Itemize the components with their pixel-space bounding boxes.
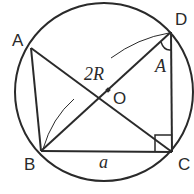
segment-bd-diameter [41, 32, 171, 151]
label-vertex-c: C [178, 155, 190, 174]
label-angle-a: A [154, 56, 167, 76]
geometry-diagram: A D B C O 2R A a [0, 0, 194, 194]
diameter-dimension-arc-upper [111, 33, 169, 58]
segment-dc [171, 32, 172, 152]
segment-ab [31, 48, 41, 151]
label-center-o: O [113, 89, 126, 108]
label-vertex-a: A [12, 31, 24, 50]
label-vertex-b: B [24, 155, 35, 174]
label-side-a: a [99, 152, 108, 172]
angle-arc-d [161, 42, 171, 50]
label-vertex-d: D [175, 10, 187, 29]
label-diameter-2r: 2R [84, 64, 104, 84]
